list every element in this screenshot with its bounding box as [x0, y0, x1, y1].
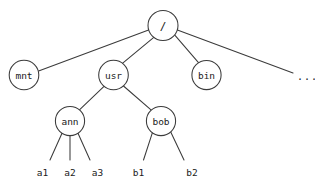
node-bin-label: bin [198, 70, 215, 81]
edge-bob-to-b1 [144, 132, 153, 160]
leaf-label-a3: a3 [92, 167, 103, 178]
leaf-label-b2: b2 [186, 167, 197, 178]
edge-ann-to-a3 [78, 133, 90, 160]
node-bob-label: bob [152, 116, 169, 127]
edge-ann-to-a1 [50, 133, 62, 160]
node-ann[interactable]: ann [55, 106, 84, 135]
node-mnt[interactable]: mnt [9, 60, 39, 90]
node-bin[interactable]: bin [192, 60, 221, 89]
edge-root-to-mnt [39, 30, 149, 71]
edge-root-to-usr [122, 37, 154, 63]
leaf-label-a2: a2 [64, 167, 75, 178]
node-usr[interactable]: usr [99, 60, 129, 90]
node-root-label: / [160, 20, 167, 33]
node-bob[interactable]: bob [146, 106, 175, 135]
edge-bob-to-b2 [171, 132, 185, 161]
node-root[interactable]: / [148, 11, 178, 41]
tree-canvas: / mnt usr bin ann bob a1 a2 [0, 0, 315, 186]
edge-usr-to-bob [124, 86, 152, 110]
node-mnt-label: mnt [15, 70, 32, 81]
edge-usr-to-ann [80, 86, 104, 109]
node-usr-label: usr [105, 70, 122, 81]
directory-tree-diagram: / mnt usr bin ann bob a1 a2 [0, 0, 315, 186]
leaf-label-group: a1 a2 a3 b1 b2 [37, 167, 198, 178]
ellipsis-more-children-label: ... [297, 71, 315, 82]
edge-root-to-bin [175, 35, 199, 63]
leaf-label-b1: b1 [133, 167, 145, 178]
edge-group-ann-leaves [50, 133, 90, 160]
node-ann-label: ann [61, 116, 78, 127]
leaf-label-a1: a1 [37, 167, 49, 178]
